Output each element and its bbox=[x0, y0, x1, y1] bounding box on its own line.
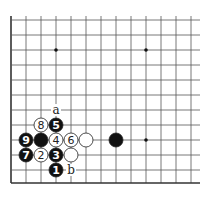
move-number: 2 bbox=[38, 149, 45, 162]
move-number: 7 bbox=[22, 149, 30, 162]
white-stone: 6 bbox=[64, 133, 78, 147]
move-number: 1 bbox=[52, 164, 60, 177]
go-board: 859467231ab bbox=[0, 0, 214, 197]
white-stone: 2 bbox=[34, 148, 48, 162]
black-stone: 7 bbox=[19, 148, 33, 162]
move-number: 8 bbox=[38, 119, 45, 132]
black-stone bbox=[109, 133, 123, 147]
star-point bbox=[144, 48, 148, 52]
star-point bbox=[144, 138, 148, 142]
white-stone bbox=[79, 133, 93, 147]
black-stone: 1 bbox=[49, 163, 63, 177]
move-number: 5 bbox=[52, 119, 60, 132]
black-stone: 3 bbox=[49, 148, 63, 162]
move-number: 4 bbox=[53, 134, 60, 147]
move-number: 9 bbox=[22, 134, 30, 147]
white-stone: 8 bbox=[34, 118, 48, 132]
black-stone: 5 bbox=[49, 118, 63, 132]
point-marker: b bbox=[67, 163, 75, 177]
move-number: 3 bbox=[52, 149, 60, 162]
move-number: 6 bbox=[68, 134, 75, 147]
star-point bbox=[54, 48, 58, 52]
black-stone bbox=[34, 133, 48, 147]
point-marker: a bbox=[52, 103, 59, 117]
white-stone: 4 bbox=[49, 133, 63, 147]
black-stone: 9 bbox=[19, 133, 33, 147]
white-stone bbox=[64, 148, 78, 162]
